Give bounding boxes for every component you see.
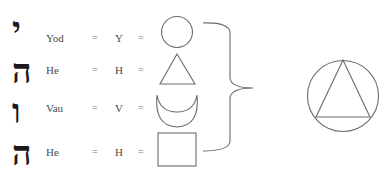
outer-circle — [308, 61, 379, 132]
crescent-symbol — [157, 95, 198, 127]
circle-symbol — [162, 17, 193, 48]
curly-brace — [203, 23, 253, 151]
square-symbol — [158, 133, 196, 166]
combined-symbol — [308, 60, 379, 132]
symbols-canvas — [0, 0, 391, 182]
inscribed-triangle — [316, 60, 370, 117]
triangle-symbol — [160, 54, 195, 84]
